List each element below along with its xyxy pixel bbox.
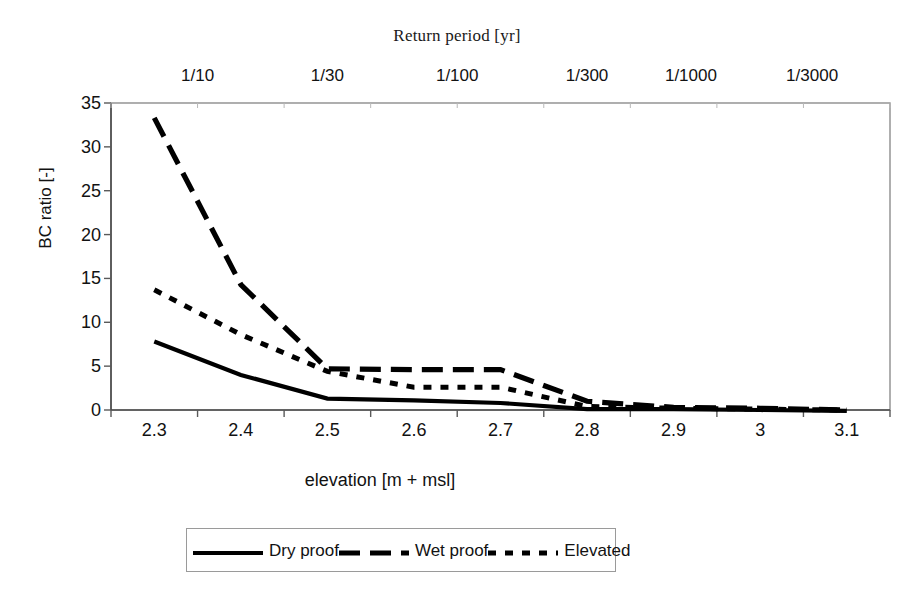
y-axis-tick-20: 20 (59, 224, 101, 245)
secondary-axis-title: Return period [yr] (0, 26, 914, 46)
y-axis-tick-35: 35 (59, 93, 101, 114)
legend-swatch-solid (193, 548, 263, 552)
x-axis-title: elevation [m + msl] (0, 470, 760, 491)
x-axis-tick-2.3: 2.3 (142, 420, 167, 441)
legend-swatch-dotted (488, 548, 558, 552)
series-line-dry-proof (154, 342, 846, 411)
y-axis-title: BC ratio [-] (36, 118, 56, 298)
x-axis-tick-3: 3 (755, 420, 765, 441)
y-axis-tick-25: 25 (59, 180, 101, 201)
secondary-axis-tick-0: 1/10 (181, 66, 214, 86)
x-axis-tick-2.5: 2.5 (315, 420, 340, 441)
secondary-axis-tick-3: 1/300 (566, 66, 609, 86)
legend-label: Wet proof (415, 542, 488, 559)
legend-swatch-long-dash (339, 548, 409, 552)
x-axis-tick-2.7: 2.7 (488, 420, 513, 441)
x-axis-tick-2.6: 2.6 (401, 420, 426, 441)
legend-item-elevated[interactable]: Elevated (488, 542, 630, 559)
series-line-elevated (154, 290, 846, 410)
secondary-axis-tick-1: 1/30 (311, 66, 344, 86)
chart-legend: Dry proofWet proofElevated (186, 528, 616, 572)
y-axis-tick-30: 30 (59, 136, 101, 157)
legend-label: Dry proof (269, 542, 339, 559)
x-axis-tick-2.8: 2.8 (575, 420, 600, 441)
y-axis-tick-0: 0 (59, 400, 101, 421)
x-axis-tick-2.9: 2.9 (661, 420, 686, 441)
legend-label: Elevated (564, 542, 630, 559)
y-axis-tick-10: 10 (59, 312, 101, 333)
legend-item-dry-proof[interactable]: Dry proof (193, 542, 339, 559)
plot-area (0, 0, 914, 599)
chart-figure: Return period [yr] 1/101/301/1001/3001/1… (0, 0, 914, 599)
y-axis-tick-5: 5 (59, 356, 101, 377)
legend-item-wet-proof[interactable]: Wet proof (339, 542, 488, 559)
x-axis-tick-3.1: 3.1 (834, 420, 859, 441)
y-axis-tick-15: 15 (59, 268, 101, 289)
series-line-wet-proof (154, 118, 846, 410)
secondary-axis-tick-4: 1/1000 (665, 66, 717, 86)
secondary-axis-tick-5: 1/3000 (786, 66, 838, 86)
x-axis-tick-2.4: 2.4 (228, 420, 253, 441)
secondary-axis-tick-2: 1/100 (436, 66, 479, 86)
